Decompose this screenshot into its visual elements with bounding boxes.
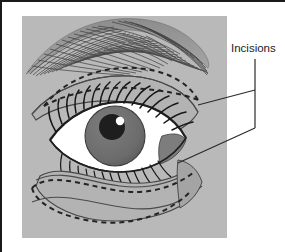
figure-frame: Incisions — [0, 0, 285, 252]
corneal-highlight — [116, 117, 124, 125]
incisions-label: Incisions — [231, 42, 276, 54]
illustration-canvas: Incisions — [2, 2, 285, 252]
